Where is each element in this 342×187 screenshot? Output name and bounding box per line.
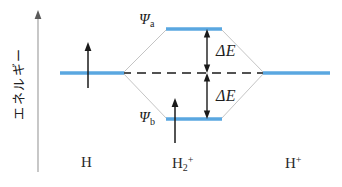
energy-axis-arrowhead	[35, 10, 42, 19]
delta-e-upper-arrow	[204, 29, 210, 73]
electron-arrow-hydrogen-head	[85, 42, 92, 51]
orbital-label-psi-a: Ψa	[139, 12, 155, 29]
correlation-lines	[123, 29, 264, 119]
species-label-h2-cation-base: H	[172, 155, 183, 171]
species-label-h-base: H	[81, 154, 92, 170]
orbital-label-psi-a-symbol: Ψ	[139, 11, 150, 27]
species-label-h-cation: H+	[285, 155, 301, 171]
species-label-h2-cation: H2+	[172, 155, 193, 173]
orbital-label-psi-b: Ψb	[139, 110, 155, 127]
correlation-line-left-upper	[123, 29, 167, 73]
species-label-h2-cation-superscript: +	[188, 154, 194, 165]
delta-e-lower-arrow	[204, 73, 210, 119]
delta-e-lower-arrow-head-top	[204, 73, 210, 82]
delta-e-lower-label: ΔE	[216, 88, 236, 104]
delta-e-upper-label: ΔE	[216, 43, 236, 59]
energy-axis-title: エネルギー	[6, 18, 28, 148]
species-label-h-cation-superscript: +	[296, 154, 302, 165]
energy-axis-title-text: エネルギー	[8, 47, 27, 120]
delta-e-upper-arrow-head-bottom	[204, 65, 210, 74]
species-label-h-cation-base: H	[285, 155, 296, 171]
electron-arrow-hydrogen	[85, 42, 92, 88]
orbital-label-psi-a-subscript: a	[150, 18, 154, 29]
orbital-label-psi-b-symbol: Ψ	[139, 109, 150, 125]
energy-axis	[35, 10, 42, 172]
mo-energy-diagram: エネルギー Ψa Ψb ΔE ΔE H H2+ H+	[0, 0, 342, 187]
electron-arrow-bonding-head	[172, 98, 179, 107]
orbital-label-psi-b-subscript: b	[150, 116, 155, 127]
species-label-h: H	[81, 155, 92, 170]
